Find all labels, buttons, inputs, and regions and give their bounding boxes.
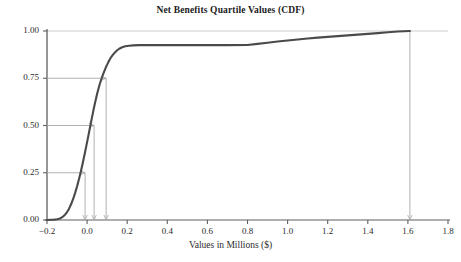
x-tick-label-0.6: 0.6 bbox=[190, 226, 224, 236]
x-tick-marks bbox=[47, 220, 448, 224]
y-tick-label-0.75: 0.75 bbox=[5, 72, 39, 82]
y-tick-label-0.25: 0.25 bbox=[5, 167, 39, 177]
chart-figure: Net Benefits Quartile Values (CDF) 0.000… bbox=[0, 0, 461, 262]
plot-area bbox=[0, 0, 461, 262]
x-tick-label-1.2: 1.2 bbox=[311, 226, 345, 236]
y-tick-label-0.50: 0.50 bbox=[5, 120, 39, 130]
x-tick-label--0.2: −0.2 bbox=[30, 226, 64, 236]
x-axis-title: Values in Millions ($) bbox=[0, 240, 461, 250]
cdf-curve bbox=[47, 31, 410, 220]
x-tick-label-1.6: 1.6 bbox=[391, 226, 425, 236]
quantile-guide-lines bbox=[47, 31, 410, 220]
x-tick-label-0.2: 0.2 bbox=[110, 226, 144, 236]
x-tick-label-1.0: 1.0 bbox=[271, 226, 305, 236]
x-tick-label-0.4: 0.4 bbox=[150, 226, 184, 236]
x-tick-label-1.4: 1.4 bbox=[351, 226, 385, 236]
x-tick-label-0.0: 0.0 bbox=[70, 226, 104, 236]
x-tick-label-1.8: 1.8 bbox=[431, 226, 461, 236]
y-tick-label-0.00: 0.00 bbox=[5, 214, 39, 224]
y-tick-label-1.00: 1.00 bbox=[5, 25, 39, 35]
x-tick-label-0.8: 0.8 bbox=[231, 226, 265, 236]
